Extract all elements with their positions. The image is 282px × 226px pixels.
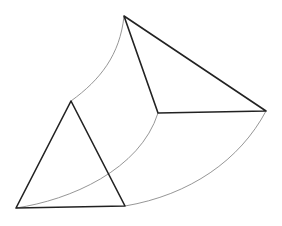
small-triangle bbox=[16, 101, 125, 208]
arc-top-to-apex bbox=[71, 16, 124, 101]
arc-right-to-bottom-right bbox=[125, 111, 266, 206]
large-triangle bbox=[124, 16, 266, 113]
triangle-sweep-diagram bbox=[0, 0, 282, 226]
arc-inner-to-bottom-left bbox=[16, 113, 158, 208]
